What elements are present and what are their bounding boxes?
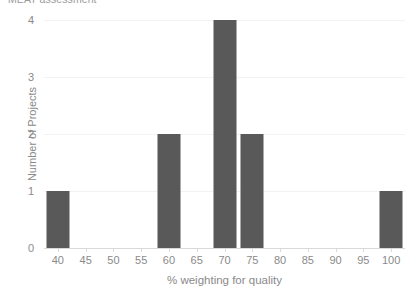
x-axis-tick-label: 55 [135, 254, 147, 266]
bar [380, 191, 403, 248]
y-axis-tick-label: 0 [28, 242, 34, 254]
x-axis-tick-mark [169, 248, 170, 252]
bar [46, 191, 69, 248]
x-axis-tick-mark [58, 248, 59, 252]
x-axis-tick-label: 75 [246, 254, 258, 266]
plot-area [44, 20, 405, 248]
bar [157, 134, 180, 248]
x-axis-tick-mark [336, 248, 337, 252]
bar [213, 20, 236, 248]
x-axis-tick-label: 60 [163, 254, 175, 266]
x-axis-tick-label: 50 [107, 254, 119, 266]
x-axis-tick-mark [113, 248, 114, 252]
x-axis-tick-mark [141, 248, 142, 252]
x-axis-tick-labels: 404550556065707580859095100 [44, 254, 405, 270]
bar [241, 134, 264, 248]
x-axis-tick-label: 40 [52, 254, 64, 266]
x-axis-title: % weighting for quality [44, 274, 405, 286]
x-axis-tick-mark [225, 248, 226, 252]
x-axis-tick-label: 90 [329, 254, 341, 266]
bar-chart: MEAT assessment Number of Projects 01234… [0, 0, 409, 295]
x-axis-tick-mark [252, 248, 253, 252]
y-axis-tick-label: 3 [28, 71, 34, 83]
y-axis-tick-label: 1 [28, 185, 34, 197]
y-axis-tick-label: 2 [28, 128, 34, 140]
x-axis-tick-label: 100 [382, 254, 400, 266]
x-axis-tick-mark [197, 248, 198, 252]
y-axis-tick-label: 4 [28, 14, 34, 26]
x-axis-tick-label: 65 [191, 254, 203, 266]
x-axis-tick-label: 85 [302, 254, 314, 266]
y-axis-tick-labels: 01234 [0, 20, 40, 248]
x-axis-tick-mark [363, 248, 364, 252]
x-axis-tick-mark [391, 248, 392, 252]
x-axis-tick-label: 80 [274, 254, 286, 266]
x-axis-tick-marks [44, 248, 405, 253]
chart-title: MEAT assessment [8, 0, 97, 5]
x-axis-tick-label: 45 [80, 254, 92, 266]
x-axis-tick-label: 95 [357, 254, 369, 266]
x-axis-tick-mark [308, 248, 309, 252]
x-axis-tick-mark [86, 248, 87, 252]
x-axis-tick-label: 70 [218, 254, 230, 266]
x-axis-tick-mark [280, 248, 281, 252]
